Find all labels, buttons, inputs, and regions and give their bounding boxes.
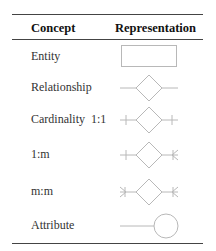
one-to-one-diamond-icon [118,105,180,135]
row-label-one-to-many: 1:m [31,147,50,162]
header-representation: Representation [115,21,196,36]
row-label-cardinality-1-1: Cardinality 1:1 [31,112,106,127]
row-label-attribute: Attribute [31,218,74,233]
table-top-rule [12,14,203,15]
one-to-many-diamond-icon [118,140,180,170]
header-rule [12,39,203,40]
header-concept: Concept [31,21,75,36]
row-label-relationship: Relationship [31,80,92,95]
row-label-entity: Entity [31,49,60,64]
row-label-many-to-many: m:m [31,184,53,199]
table-bottom-rule [12,243,203,244]
entity-rectangle-icon [118,45,180,69]
many-to-many-diamond-icon [118,177,180,207]
attribute-circle-icon [118,211,180,241]
relationship-diamond-icon [118,73,180,103]
